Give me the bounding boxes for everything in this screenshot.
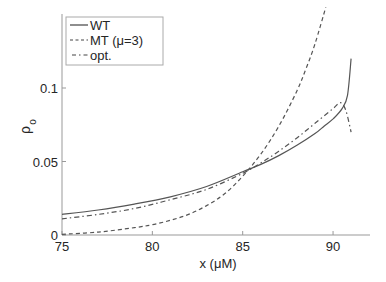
y-tick-label: 0 xyxy=(51,228,58,243)
chart: 75808590 00.050.1 x (μM) ρ o WT MT (μ=3)… xyxy=(0,0,386,282)
x-tick-label: 85 xyxy=(235,239,249,254)
legend: WT MT (μ=3) opt. xyxy=(66,17,163,65)
legend-label-wt: WT xyxy=(90,18,110,33)
x-axis-label: x (μM) xyxy=(199,256,236,271)
y-ticks: 00.050.1 xyxy=(33,81,66,243)
legend-label-opt: opt. xyxy=(90,48,112,63)
y-tick-label: 0.1 xyxy=(40,81,58,96)
series-line-wt xyxy=(62,59,351,215)
y-tick-label: 0.05 xyxy=(33,155,58,170)
y-axis-label-sub: o xyxy=(27,119,38,125)
legend-label-mt: MT (μ=3) xyxy=(90,33,143,48)
x-tick-label: 90 xyxy=(326,239,340,254)
x-ticks: 75808590 xyxy=(55,231,341,254)
y-axis-label: ρ o xyxy=(17,119,38,134)
y-axis-label-main: ρ xyxy=(17,126,33,134)
x-tick-label: 80 xyxy=(145,239,159,254)
series-line-opt xyxy=(62,103,351,219)
